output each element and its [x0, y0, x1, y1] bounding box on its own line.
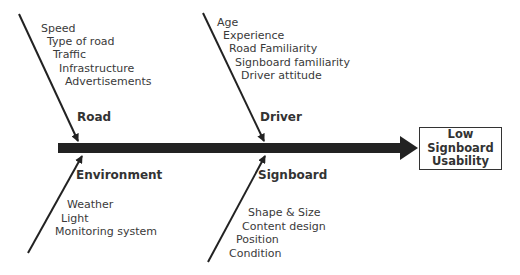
category-environment: Environment [76, 168, 162, 182]
effect-line: Usability [432, 155, 489, 169]
road-cause: Type of road [47, 35, 115, 48]
driver-cause: Experience [223, 29, 284, 42]
driver-cause: Road Familiarity [229, 42, 317, 55]
driver-cause: Signboard familiarity [235, 56, 350, 69]
road-cause: Speed [41, 22, 75, 35]
category-road: Road [77, 110, 111, 124]
signboard-cause: Content design [242, 220, 326, 233]
environment-cause: Monitoring system [55, 225, 157, 238]
effect-line: Signboard [427, 142, 493, 156]
effect-box: Low Signboard Usability [419, 127, 502, 170]
road-cause: Traffic [53, 48, 86, 61]
signboard-cause: Shape & Size [248, 206, 321, 219]
effect-line: Low [448, 128, 474, 142]
signboard-cause: Condition [229, 247, 282, 260]
road-cause: Infrastructure [59, 62, 134, 75]
signboard-cause: Position [236, 233, 279, 246]
environment-cause: Light [61, 212, 88, 225]
category-signboard: Signboard [258, 168, 327, 182]
road-cause: Advertisements [65, 75, 151, 88]
spine-arrowhead [400, 136, 418, 160]
environment-cause: Weather [67, 198, 113, 211]
category-driver: Driver [260, 110, 302, 124]
driver-cause: Age [217, 16, 238, 29]
driver-cause: Driver attitude [241, 69, 322, 82]
spine [58, 143, 402, 153]
